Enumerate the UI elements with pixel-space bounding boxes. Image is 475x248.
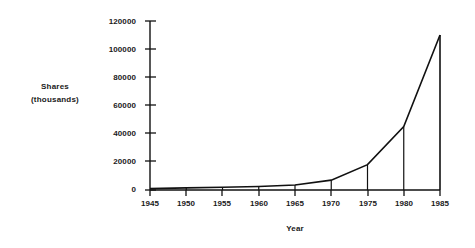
data-drop-lines: [186, 35, 440, 190]
data-series-line: [150, 35, 440, 189]
x-axis-ticks: [150, 190, 440, 196]
plot-area: [0, 0, 475, 248]
chart-container: Shares (thousands) Year 120000 100000 80…: [0, 0, 475, 248]
axes: [150, 21, 440, 190]
